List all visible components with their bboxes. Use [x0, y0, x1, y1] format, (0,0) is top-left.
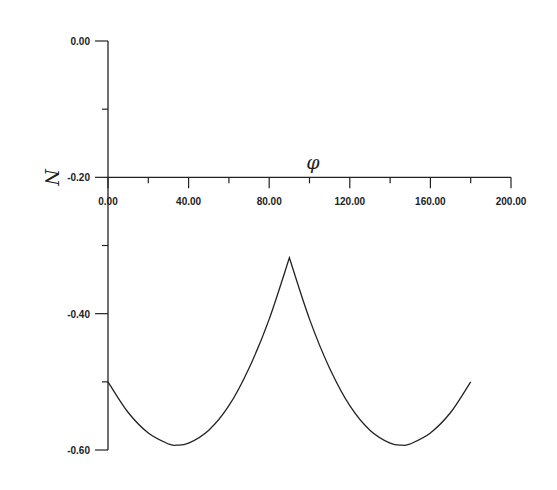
x-tick-label: 80.00 — [257, 196, 282, 207]
x-tick-label: 120.00 — [335, 196, 366, 207]
x-tick-label: 160.00 — [415, 196, 446, 207]
x-axis-label: φ — [306, 151, 320, 173]
x-tick-label: 200.00 — [496, 196, 527, 207]
y-tick-label: -0.40 — [67, 309, 90, 320]
x-tick-label: 0.00 — [98, 196, 118, 207]
y-tick-label: -0.20 — [67, 172, 90, 183]
x-tick-label: 40.00 — [176, 196, 201, 207]
y-ticks: 0.00-0.20-0.40-0.60 — [67, 36, 108, 456]
y-tick-label: -0.60 — [67, 445, 90, 456]
data-line — [108, 258, 471, 446]
y-axis-label: N — [41, 168, 63, 187]
x-ticks: 0.0040.0080.00120.00160.00200.00 — [98, 177, 526, 207]
chart: 0.00-0.20-0.40-0.60 0.0040.0080.00120.00… — [0, 0, 557, 490]
y-tick-label: 0.00 — [71, 36, 91, 47]
axes: 0.00-0.20-0.40-0.60 0.0040.0080.00120.00… — [67, 36, 527, 456]
